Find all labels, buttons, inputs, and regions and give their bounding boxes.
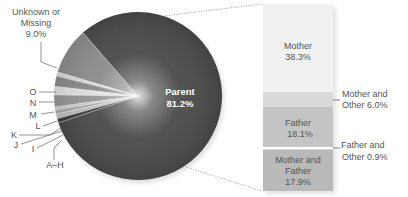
bar-segment-mother-and-other <box>263 92 333 107</box>
leader-i <box>37 135 63 148</box>
father-and-other-label-line2: Other 0.9% <box>342 152 388 162</box>
leader-l <box>43 121 57 126</box>
leader-a-h <box>54 140 62 160</box>
unknown-leader-line <box>41 42 57 68</box>
label-l: L <box>35 121 40 131</box>
mother-and-father-value: 17.9% <box>285 177 311 187</box>
unknown-value: 9.0% <box>26 29 47 39</box>
label-i: I <box>32 144 35 154</box>
mother-label: Mother <box>284 41 312 51</box>
label-n: N <box>30 98 37 108</box>
label-m: M <box>29 110 37 120</box>
bar-segment-father-and-other <box>263 147 333 150</box>
mother-and-father-label-line1: Mother and <box>275 155 321 165</box>
label-a-h: A–H <box>46 160 64 170</box>
unknown-label-line1: Unknown or <box>12 7 60 17</box>
pie-glow-overlay <box>54 12 222 180</box>
parent-value: 81.2% <box>167 98 194 109</box>
father-and-other-label-line1: Father and <box>341 140 385 150</box>
leader-j <box>21 131 62 144</box>
label-j: J <box>14 140 19 150</box>
label-o: O <box>29 87 36 97</box>
label-k: K <box>11 130 17 140</box>
leader-m <box>41 112 54 114</box>
father-label: Father <box>285 118 311 128</box>
connector-top <box>164 4 262 16</box>
pie-of-bar-chart: Parent 81.2% Unknown or Missing 9.0% O N… <box>0 0 408 197</box>
mother-and-father-label-line2: Father <box>285 166 311 176</box>
parent-label: Parent <box>165 86 195 97</box>
mother-value: 38.3% <box>285 52 311 62</box>
unknown-label-line2: Missing <box>21 18 52 28</box>
father-value: 18.1% <box>287 129 313 139</box>
connector-bottom <box>186 167 262 191</box>
mother-and-other-label-line1: Mother and <box>342 89 388 99</box>
mother-and-other-label-line2: Other 6.0% <box>342 100 388 110</box>
